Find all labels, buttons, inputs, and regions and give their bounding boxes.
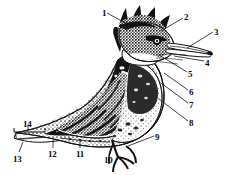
label-13[interactable]: 13 xyxy=(13,155,22,164)
label-10[interactable]: 10 xyxy=(104,156,113,165)
leader-line-13 xyxy=(19,142,23,152)
label-5[interactable]: 5 xyxy=(188,70,192,79)
label-12[interactable]: 12 xyxy=(48,150,57,159)
label-8[interactable]: 8 xyxy=(189,119,193,128)
label-3[interactable]: 3 xyxy=(214,28,218,37)
leader-line-7 xyxy=(161,83,188,103)
label-1[interactable]: 1 xyxy=(102,9,106,18)
label-4[interactable]: 4 xyxy=(205,59,209,68)
label-2[interactable]: 2 xyxy=(184,13,188,22)
leader-line-3 xyxy=(187,32,213,48)
label-11[interactable]: 11 xyxy=(76,150,84,159)
bird-anatomy-figure: 1 2 3 4 5 6 7 8 9 10 11 12 13 14 xyxy=(0,0,233,175)
eye xyxy=(152,37,161,45)
leader-line-8 xyxy=(159,99,188,121)
label-7[interactable]: 7 xyxy=(189,101,193,110)
label-14[interactable]: 14 xyxy=(23,120,32,129)
label-6[interactable]: 6 xyxy=(189,88,193,97)
kingfisher-illustration xyxy=(0,0,233,175)
label-9[interactable]: 9 xyxy=(155,133,159,142)
